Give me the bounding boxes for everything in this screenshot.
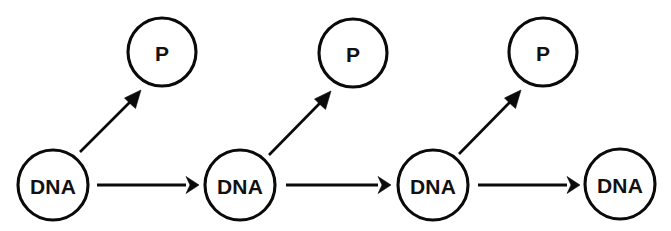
arrowhead-icon	[567, 177, 580, 194]
node-label: DNA	[217, 175, 263, 198]
node-label: P	[346, 43, 360, 66]
edge-line	[80, 101, 131, 152]
edge-dna2-dna3	[286, 177, 391, 194]
edge-dna1-dna2	[97, 177, 199, 194]
node-p-1[interactable]: P	[128, 18, 196, 86]
node-dna-4[interactable]: DNA	[585, 149, 655, 219]
node-label: P	[536, 42, 550, 65]
node-label: P	[155, 42, 169, 65]
edge-dna1-p1	[80, 90, 141, 152]
edge-dna3-dna4	[478, 177, 580, 194]
node-p-2[interactable]: P	[319, 19, 387, 87]
node-p-3[interactable]: P	[509, 18, 577, 86]
node-dna-1[interactable]: DNA	[18, 150, 88, 220]
edge-group	[80, 90, 580, 194]
node-label: DNA	[597, 174, 643, 197]
edge-dna3-p3	[459, 90, 521, 154]
node-label: DNA	[410, 175, 456, 198]
edge-dna2-p2	[269, 91, 331, 155]
node-dna-2[interactable]: DNA	[205, 150, 275, 220]
node-label: DNA	[30, 175, 76, 198]
dna-replication-diagram: DNA DNA DNA DNA P	[0, 0, 671, 231]
node-dna-3[interactable]: DNA	[398, 150, 468, 220]
edge-line	[269, 102, 321, 155]
edge-line	[459, 101, 511, 154]
arrowhead-icon	[378, 177, 391, 194]
arrowhead-icon	[186, 177, 199, 194]
diagram-canvas: DNA DNA DNA DNA P	[0, 0, 671, 231]
